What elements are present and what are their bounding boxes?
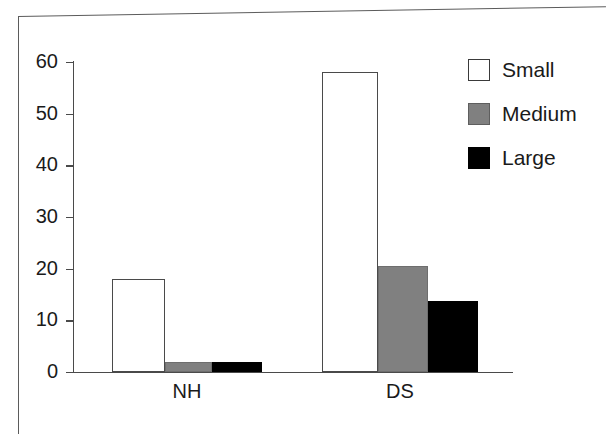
legend-label-small: Small: [502, 55, 555, 85]
bar-nh-medium: [165, 362, 212, 372]
legend-label-medium: Medium: [502, 99, 577, 129]
legend-swatch-icon-large: [468, 147, 490, 169]
x-axis-line: [73, 372, 513, 373]
legend-swatch-icon-medium: [468, 103, 490, 125]
legend-label-large: Large: [502, 143, 556, 173]
bar-nh-large: [212, 362, 262, 372]
bar-nh-small: [112, 279, 165, 372]
bar-ds-small: [322, 72, 378, 372]
x-axis-label-nh: NH: [72, 380, 302, 402]
y-axis-tick-mark: [66, 372, 74, 373]
legend-swatch-icon-small: [468, 59, 490, 81]
bar-ds-medium: [378, 266, 428, 372]
x-axis-label-ds: DS: [282, 380, 518, 402]
bar-ds-large: [428, 301, 478, 372]
